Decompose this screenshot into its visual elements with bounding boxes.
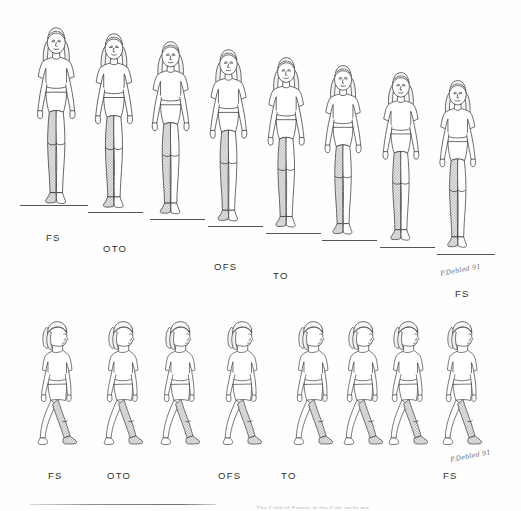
gait-event-label-frontal-fs-0: FS [46,232,61,243]
caption-rule [30,504,216,505]
gait-event-label-frontal-fs-4: FS [455,288,470,299]
frontal-figure-5 [258,52,314,240]
sagittal-figure-6 [338,318,389,451]
gait-event-label-sagittal-oto-1: OTO [107,470,131,481]
frontal-ground-line-6 [322,240,377,241]
sagittal-figure-8 [437,318,488,451]
sagittal-figure-7 [383,318,434,451]
artist-signature-1: P.Debled 91 [440,262,482,278]
gait-event-label-frontal-ofs-2: OFS [214,261,237,272]
frontal-figure-7 [373,67,429,253]
sagittal-figure-2 [98,318,149,451]
caption-cut-text: The Critical Events in the Gait cycle ar… [256,505,518,509]
gait-event-label-sagittal-to-3: TO [281,470,297,481]
frontal-ground-line-5 [266,233,321,234]
frontal-ground-line-7 [380,247,435,248]
figure-page: FSOTOOFSTOFSFSOTOOFSTOFS P.Debled 91P.De… [0,0,521,511]
sagittal-figure-3 [155,318,206,451]
frontal-ground-line-1 [20,205,88,206]
frontal-figure-1 [27,22,86,217]
frontal-figure-2 [85,28,143,221]
frontal-figure-3 [142,36,199,227]
frontal-ground-line-2 [88,212,143,213]
frontal-figure-4 [200,44,257,234]
sagittal-figure-5 [288,318,339,451]
gait-event-label-sagittal-fs-0: FS [48,470,63,481]
gait-event-label-sagittal-ofs-2: OFS [218,470,241,481]
frontal-figure-6 [315,60,371,247]
frontal-ground-line-4 [208,226,263,227]
gait-event-label-frontal-to-3: TO [273,270,289,281]
frontal-ground-line-8 [437,254,495,255]
sagittal-figure-4 [217,318,268,451]
gait-event-label-frontal-oto-1: OTO [103,243,127,254]
frontal-ground-line-3 [150,219,205,220]
frontal-figure-8 [430,75,486,260]
sagittal-figure-1 [32,318,83,451]
gait-event-label-sagittal-fs-4: FS [443,470,458,481]
